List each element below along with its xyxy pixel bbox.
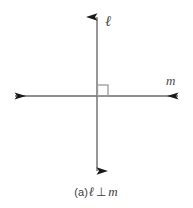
caption-prefix: (a): [74, 186, 87, 198]
geometry-diagram: [0, 0, 193, 208]
perpendicular-lines-figure: ℓ m (a)ℓ⊥m: [0, 0, 193, 208]
perpendicular-symbol: ⊥: [95, 185, 107, 199]
line-label-l: ℓ: [105, 14, 111, 29]
line-label-m: m: [166, 74, 175, 87]
figure-caption: (a)ℓ⊥m: [0, 184, 193, 200]
caption-line-m: m: [107, 184, 118, 199]
right-angle-square: [98, 85, 109, 96]
